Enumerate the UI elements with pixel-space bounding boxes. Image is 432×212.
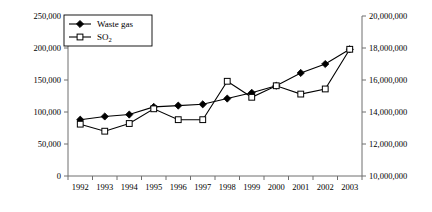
x-axis-tick-label: 2002 (317, 182, 334, 192)
x-axis: 1992199319941995199619971998199920002001… (68, 176, 362, 192)
data-point-marker (298, 91, 304, 97)
data-point-marker (101, 113, 108, 120)
data-point-marker (126, 121, 132, 127)
x-axis-tick-label: 2000 (268, 182, 285, 192)
data-point-marker (175, 102, 182, 109)
line-chart: 050,000100,000150,000200,000250,000 10,0… (0, 0, 432, 212)
series-so2 (77, 46, 352, 134)
x-axis-tick-label: 1995 (145, 182, 162, 192)
right-axis-tick-label: 20,000,000 (369, 11, 407, 21)
data-point-marker (249, 94, 255, 100)
x-axis-tick-label: 1994 (121, 182, 139, 192)
data-point-marker (126, 111, 133, 118)
data-point-marker (151, 106, 157, 112)
chart-container: 050,000100,000150,000200,000250,000 10,0… (0, 0, 432, 212)
left-axis-tick-label: 100,000 (33, 107, 61, 117)
series-waste-gas (77, 46, 354, 124)
x-axis-tick-label: 1997 (194, 182, 211, 192)
data-point-marker (273, 83, 279, 89)
left-axis-tick-label: 0 (57, 171, 61, 181)
data-point-marker (322, 60, 329, 67)
left-axis-tick-label: 200,000 (33, 43, 61, 53)
data-point-marker (200, 117, 206, 123)
left-axis: 050,000100,000150,000200,000250,000 (33, 11, 68, 181)
right-axis-tick-label: 10,000,000 (369, 171, 407, 181)
data-point-marker (77, 121, 83, 127)
legend-label: Waste gas (97, 19, 134, 29)
data-point-marker (322, 86, 328, 92)
right-axis: 10,000,00012,000,00014,000,00016,000,000… (362, 11, 407, 181)
x-axis-tick-label: 1996 (170, 182, 187, 192)
data-point-marker (175, 117, 181, 123)
x-axis-tick-label: 2003 (341, 182, 358, 192)
x-axis-tick-label: 1993 (96, 182, 113, 192)
data-point-marker (199, 101, 206, 108)
right-axis-tick-label: 18,000,000 (369, 43, 407, 53)
series-layer (77, 46, 354, 134)
right-axis-tick-label: 14,000,000 (369, 107, 407, 117)
data-point-marker (347, 46, 353, 52)
right-axis-tick-label: 16,000,000 (369, 75, 407, 85)
data-point-marker (224, 95, 231, 102)
x-axis-tick-label: 2001 (292, 182, 309, 192)
x-axis-tick-label: 1998 (219, 182, 236, 192)
data-point-marker (224, 78, 230, 84)
data-point-marker (77, 34, 83, 40)
data-point-marker (102, 128, 108, 134)
data-point-marker (297, 69, 304, 76)
x-axis-tick-label: 1992 (72, 182, 89, 192)
left-axis-tick-label: 250,000 (33, 11, 61, 21)
chart-legend: Waste gasSO2 (64, 15, 152, 46)
right-axis-tick-label: 12,000,000 (369, 139, 407, 149)
x-axis-tick-label: 1999 (243, 182, 260, 192)
left-axis-tick-label: 150,000 (33, 75, 61, 85)
left-axis-tick-label: 50,000 (38, 139, 61, 149)
